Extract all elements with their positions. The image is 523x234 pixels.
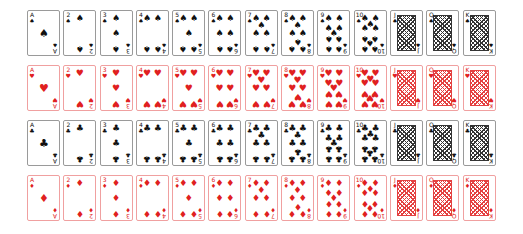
spades-icon: ♠: [262, 29, 271, 38]
clubs-icon: ♣: [262, 139, 271, 148]
diamonds-icon: ♦: [306, 207, 312, 213]
diamonds-icon: ♦: [488, 207, 494, 213]
card-q-of-clubs[interactable]: Q♣Q♣: [426, 120, 459, 166]
clubs-icon: ♣: [112, 154, 121, 163]
hearts-icon: ♥: [270, 97, 276, 103]
rank-label: 10: [377, 213, 385, 220]
card-4-of-diamonds[interactable]: 4♦♦♦♦♦4♦: [136, 175, 169, 221]
clubs-icon: ♣: [143, 123, 152, 132]
card-7-of-clubs[interactable]: 7♣♣♣♣♣♣♣♣7♣: [245, 120, 278, 166]
clubs-icon: ♣: [52, 152, 58, 158]
card-2-of-spades[interactable]: 2♠♠♠2♠: [63, 10, 96, 56]
card-7-of-hearts[interactable]: 7♥♥♥♥♥♥♥♥7♥: [245, 65, 278, 111]
hearts-icon: ♥: [179, 99, 188, 108]
clubs-icon: ♣: [215, 154, 224, 163]
hearts-icon: ♥: [226, 84, 235, 93]
card-j-of-diamonds[interactable]: J♦J♦: [390, 175, 423, 221]
card-a-of-hearts[interactable]: A♥♥A♥: [27, 65, 60, 111]
card-a-of-diamonds[interactable]: A♦♦A♦: [27, 175, 60, 221]
diamonds-icon: ♦: [324, 199, 333, 208]
rank-label: 7: [271, 158, 275, 165]
card-k-of-diamonds[interactable]: K♦K♦: [463, 175, 496, 221]
card-9-of-spades[interactable]: 9♠♠♠♠♠♠♠♠♠♠9♠: [317, 10, 350, 56]
card-2-of-diamonds[interactable]: 2♦♦♦2♦: [63, 175, 96, 221]
card-8-of-hearts[interactable]: 8♥♥♥♥♥♥♥♥♥8♥: [281, 65, 314, 111]
card-10-of-hearts[interactable]: 10♥♥♥♥♥♥♥♥♥♥♥10♥: [354, 65, 387, 111]
card-10-of-spades[interactable]: 10♠♠♠♠♠♠♠♠♠♠♠10♠: [354, 10, 387, 56]
card-10-of-clubs[interactable]: 10♣♣♣♣♣♣♣♣♣♣♣10♣: [354, 120, 387, 166]
spades-icon: ♠: [335, 13, 344, 22]
card-3-of-diamonds[interactable]: 3♦♦♦♦3♦: [100, 175, 133, 221]
card-a-of-clubs[interactable]: A♣♣A♣: [27, 120, 60, 166]
face-card-art: [470, 180, 489, 216]
pip-area: ♥♥♥♥♥♥♥♥♥: [324, 70, 343, 106]
card-10-of-diamonds[interactable]: 10♦♦♦♦♦♦♦♦♦♦♦10♦: [354, 175, 387, 221]
clubs-icon: ♣: [179, 154, 188, 163]
card-a-of-spades[interactable]: A♠♠A♠: [27, 10, 60, 56]
card-index: K♠: [488, 42, 494, 54]
card-j-of-hearts[interactable]: J♥J♥: [390, 65, 423, 111]
pip-area: ♣♣♣: [107, 125, 126, 161]
card-6-of-clubs[interactable]: 6♣♣♣♣♣♣♣6♣: [208, 120, 241, 166]
card-5-of-clubs[interactable]: 5♣♣♣♣♣♣5♣: [172, 120, 205, 166]
card-q-of-spades[interactable]: Q♠Q♠: [426, 10, 459, 56]
card-6-of-diamonds[interactable]: 6♦♦♦♦♦♦♦6♦: [208, 175, 241, 221]
card-6-of-hearts[interactable]: 6♥♥♥♥♥♥♥6♥: [208, 65, 241, 111]
clubs-icon: ♣: [324, 123, 333, 132]
card-8-of-clubs[interactable]: 8♣♣♣♣♣♣♣♣♣8♣: [281, 120, 314, 166]
card-5-of-diamonds[interactable]: 5♦♦♦♦♦♦5♦: [172, 175, 205, 221]
spades-icon: ♠: [179, 44, 188, 53]
card-6-of-spades[interactable]: 6♠♠♠♠♠♠♠6♠: [208, 10, 241, 56]
clubs-icon: ♣: [215, 139, 224, 148]
card-k-of-spades[interactable]: K♠K♠: [463, 10, 496, 56]
card-9-of-hearts[interactable]: 9♥♥♥♥♥♥♥♥♥♥9♥: [317, 65, 350, 111]
card-9-of-clubs[interactable]: 9♣♣♣♣♣♣♣♣♣♣9♣: [317, 120, 350, 166]
rank-label: 5: [198, 158, 202, 165]
card-k-of-clubs[interactable]: K♣K♣: [463, 120, 496, 166]
card-j-of-spades[interactable]: J♠J♠: [390, 10, 423, 56]
card-3-of-spades[interactable]: 3♠♠♠♠3♠: [100, 10, 133, 56]
pip-area: ♠♠♠♠♠: [179, 15, 198, 51]
pip-area: ♣♣: [70, 125, 89, 161]
diamonds-icon: ♦: [161, 207, 167, 213]
hearts-icon: ♥: [251, 84, 260, 93]
card-5-of-hearts[interactable]: 5♥♥♥♥♥♥5♥: [172, 65, 205, 111]
hearts-icon: ♥: [88, 97, 94, 103]
card-3-of-clubs[interactable]: 3♣♣♣♣3♣: [100, 120, 133, 166]
card-4-of-spades[interactable]: 4♠♠♠♠♠4♠: [136, 10, 169, 56]
card-4-of-hearts[interactable]: 4♥♥♥♥♥4♥: [136, 65, 169, 111]
face-card-art: [397, 125, 416, 161]
pip-area: ♠♠♠♠♠♠: [215, 15, 234, 51]
spades-icon: ♠: [251, 29, 260, 38]
rank-label: 8: [307, 213, 311, 220]
card-2-of-clubs[interactable]: 2♣♣♣2♣: [63, 120, 96, 166]
card-8-of-diamonds[interactable]: 8♦♦♦♦♦♦♦♦♦8♦: [281, 175, 314, 221]
clubs-icon: ♣: [75, 123, 84, 132]
card-3-of-hearts[interactable]: 3♥♥♥♥3♥: [100, 65, 133, 111]
pip-area: ♥♥♥♥♥♥♥♥: [288, 70, 307, 106]
clubs-icon: ♣: [75, 154, 84, 163]
hearts-icon: ♥: [251, 99, 260, 108]
card-q-of-diamonds[interactable]: Q♦Q♦: [426, 175, 459, 221]
card-9-of-diamonds[interactable]: 9♦♦♦♦♦♦♦♦♦♦9♦: [317, 175, 350, 221]
card-7-of-spades[interactable]: 7♠♠♠♠♠♠♠♠7♠: [245, 10, 278, 56]
card-5-of-spades[interactable]: 5♠♠♠♠♠♠5♠: [172, 10, 205, 56]
card-4-of-clubs[interactable]: 4♣♣♣♣♣4♣: [136, 120, 169, 166]
card-index: Q♣: [451, 152, 457, 164]
spades-icon: ♠: [184, 29, 193, 38]
card-index: 9♣: [342, 152, 348, 164]
card-7-of-diamonds[interactable]: 7♦♦♦♦♦♦♦♦7♦: [245, 175, 278, 221]
diamonds-icon: ♦: [39, 194, 48, 203]
diamonds-icon: ♦: [179, 209, 188, 218]
pip-area: ♠♠♠♠♠♠♠♠♠: [324, 15, 343, 51]
card-2-of-hearts[interactable]: 2♥♥♥2♥: [63, 65, 96, 111]
diamonds-icon: ♦: [112, 178, 121, 187]
hearts-icon: ♥: [324, 68, 333, 77]
card-q-of-hearts[interactable]: Q♥Q♥: [426, 65, 459, 111]
spades-icon: ♠: [88, 42, 94, 48]
card-k-of-hearts[interactable]: K♥K♥: [463, 65, 496, 111]
rank-label: 4: [162, 103, 166, 110]
card-8-of-spades[interactable]: 8♠♠♠♠♠♠♠♠♠8♠: [281, 10, 314, 56]
diamonds-icon: ♦: [270, 207, 276, 213]
card-j-of-clubs[interactable]: J♣J♣: [390, 120, 423, 166]
